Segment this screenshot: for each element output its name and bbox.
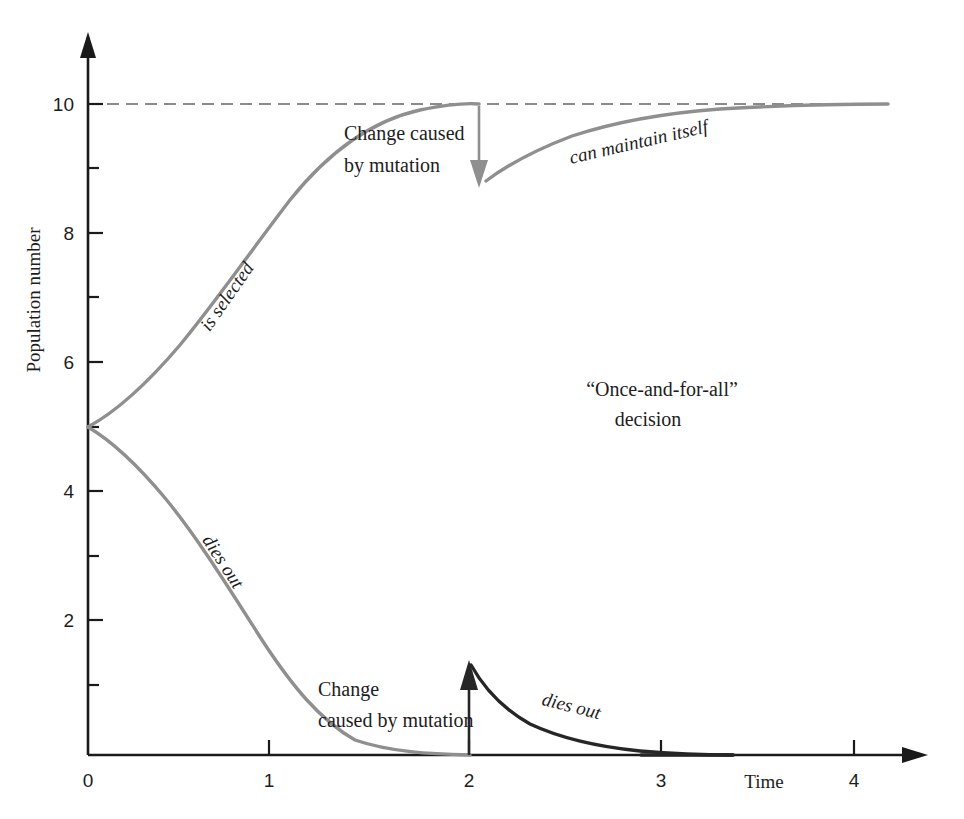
annotation-mutation-bottom-line1: Change	[318, 678, 379, 701]
y-tick-label-8: 8	[63, 223, 74, 244]
annotation-once-and-for-all-line1: “Once-and-for-all”	[586, 378, 738, 400]
x-tick-label-3: 3	[656, 770, 667, 791]
mutation-drop-arrowhead	[470, 160, 488, 188]
annotation-is-selected: is selected	[196, 258, 259, 335]
annotation-mutation-top-line1: Change caused	[344, 122, 465, 145]
annotation-can-maintain-itself: can maintain itself	[567, 115, 712, 168]
annotation-mutation-bottom-line2: caused by mutation	[318, 709, 474, 732]
x-axis-arrowhead	[902, 747, 928, 763]
annotation-mutation-top-line2: by mutation	[344, 154, 440, 177]
x-tick-label-4: 4	[849, 770, 860, 791]
annotation-once-and-for-all-line2: decision	[615, 408, 682, 430]
y-axis-title: Population number	[23, 227, 44, 373]
y-tick-label-6: 6	[63, 352, 74, 373]
chart-canvas: 10 8 6 4 2 0 1 2 3 4 Population number T…	[0, 0, 964, 819]
x-tick-label-0: 0	[83, 770, 94, 791]
curve-dies-out-lower	[471, 665, 733, 755]
population-dynamics-figure: 10 8 6 4 2 0 1 2 3 4 Population number T…	[0, 0, 964, 819]
annotation-dies-out-upper: dies out	[198, 531, 248, 593]
curve-dies-out-upper	[88, 427, 470, 755]
y-tick-label-2: 2	[63, 610, 74, 631]
x-tick-label-2: 2	[464, 770, 475, 791]
x-tick-label-1: 1	[264, 770, 275, 791]
y-axis-arrowhead	[80, 32, 96, 58]
y-tick-label-4: 4	[63, 481, 74, 502]
curve-can-maintain-itself	[486, 104, 888, 181]
y-tick-label-10: 10	[53, 94, 74, 115]
annotation-dies-out-lower: dies out	[540, 688, 604, 723]
x-axis-title: Time	[744, 771, 783, 792]
curve-is-selected	[88, 104, 479, 427]
